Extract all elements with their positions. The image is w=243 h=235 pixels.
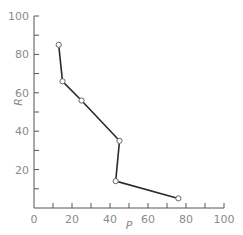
y-tick-label: 100 (8, 10, 29, 23)
x-tick-label: 20 (65, 213, 79, 226)
y-tick-label: 60 (15, 87, 29, 100)
data-point-marker (56, 42, 61, 47)
y-tick-label: 20 (15, 164, 29, 177)
line-chart: 02040608010020406080100 P R (0, 0, 243, 235)
series-line (59, 45, 179, 199)
y-tick-label: 40 (15, 125, 29, 138)
x-tick-label: 100 (214, 213, 235, 226)
x-axis-label: P (126, 219, 133, 232)
y-axis-label: R (12, 98, 25, 106)
data-point-marker (60, 79, 65, 84)
data-series (56, 42, 181, 201)
data-point-marker (79, 98, 84, 103)
data-point-marker (176, 196, 181, 201)
axes: 02040608010020406080100 (8, 10, 235, 226)
data-point-marker (117, 138, 122, 143)
x-tick-label: 80 (179, 213, 193, 226)
x-tick-label: 40 (103, 213, 117, 226)
x-tick-label: 0 (31, 213, 38, 226)
y-tick-label: 80 (15, 48, 29, 61)
x-tick-label: 60 (141, 213, 155, 226)
data-point-marker (113, 179, 118, 184)
